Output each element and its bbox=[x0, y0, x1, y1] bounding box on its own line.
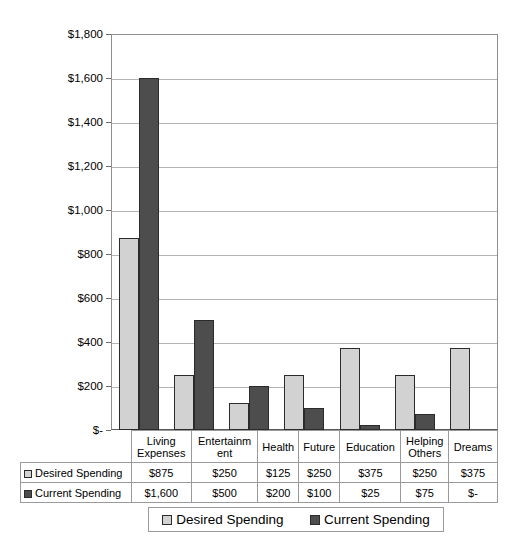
y-axis-tick-label: $200 bbox=[37, 380, 103, 392]
category-header-cell: Health bbox=[258, 431, 299, 463]
y-axis-tick-label: $1,800 bbox=[37, 28, 103, 40]
bar bbox=[229, 403, 249, 431]
bar bbox=[415, 414, 435, 431]
bar bbox=[304, 408, 324, 430]
table-row: Desired Spending$875$250$125$250$375$250… bbox=[21, 463, 498, 483]
legend-entry: Desired Spending bbox=[162, 512, 283, 527]
bar bbox=[119, 238, 139, 431]
data-cell: $100 bbox=[299, 483, 340, 503]
data-cell: $25 bbox=[340, 483, 401, 503]
category-header-cell: LivingExpenses bbox=[131, 431, 191, 463]
data-cell: $250 bbox=[191, 463, 257, 483]
bar bbox=[139, 78, 159, 430]
data-cell: $125 bbox=[258, 463, 299, 483]
y-axis-tick-label: $1,000 bbox=[37, 204, 103, 216]
category-header-cell: Dreams bbox=[449, 431, 498, 463]
category-header-cell: Education bbox=[340, 431, 401, 463]
data-cell: $200 bbox=[258, 483, 299, 503]
data-cell: $500 bbox=[191, 483, 257, 503]
bar bbox=[340, 348, 360, 431]
y-axis-tick-label: $1,400 bbox=[37, 116, 103, 128]
table-corner-cell bbox=[21, 431, 132, 463]
bar-group bbox=[277, 34, 332, 430]
bar bbox=[194, 320, 214, 430]
table-row: LivingExpensesEntertainmentHealthFutureE… bbox=[21, 431, 498, 463]
bar-chart: $1,800$1,600$1,400$1,200$1,000$800$600$4… bbox=[0, 0, 524, 556]
bar bbox=[284, 375, 304, 430]
bar-group bbox=[387, 34, 442, 430]
category-header-cell: Entertainment bbox=[191, 431, 257, 463]
y-axis-tick-label: $800 bbox=[37, 248, 103, 260]
legend-swatch-icon bbox=[162, 515, 172, 525]
legend-label: Current Spending bbox=[324, 512, 430, 527]
data-cell: $- bbox=[449, 483, 498, 503]
bar bbox=[249, 386, 269, 430]
data-table: LivingExpensesEntertainmentHealthFutureE… bbox=[20, 430, 498, 503]
legend-label: Desired Spending bbox=[176, 512, 283, 527]
legend-swatch-icon bbox=[310, 515, 320, 525]
bar bbox=[174, 375, 194, 430]
y-axis-tick-label: $400 bbox=[37, 336, 103, 348]
table-row: Current Spending$1,600$500$200$100$25$75… bbox=[21, 483, 498, 503]
data-cell: $875 bbox=[131, 463, 191, 483]
bar-group bbox=[166, 34, 221, 430]
chart-legend: Desired SpendingCurrent Spending bbox=[148, 507, 444, 532]
series-name-label: Current Spending bbox=[35, 487, 121, 499]
bar-group bbox=[222, 34, 277, 430]
category-header-cell: Future bbox=[299, 431, 340, 463]
bar-group bbox=[332, 34, 387, 430]
y-axis-tick-label: $1,200 bbox=[37, 160, 103, 172]
data-cell: $375 bbox=[340, 463, 401, 483]
legend-swatch-icon bbox=[24, 490, 32, 498]
data-cell: $250 bbox=[299, 463, 340, 483]
bar-group bbox=[111, 34, 166, 430]
series-name-label: Desired Spending bbox=[35, 467, 122, 479]
data-cell: $250 bbox=[401, 463, 449, 483]
bar-group bbox=[443, 34, 498, 430]
bar bbox=[450, 348, 470, 431]
legend-swatch-icon bbox=[24, 470, 32, 478]
bars-layer bbox=[111, 34, 498, 430]
legend-entry: Current Spending bbox=[310, 512, 430, 527]
bar bbox=[395, 375, 415, 430]
category-header-cell: HelpingOthers bbox=[401, 431, 449, 463]
y-axis-tick-label: $600 bbox=[37, 292, 103, 304]
y-axis-tick-label: $1,600 bbox=[37, 72, 103, 84]
data-cell: $375 bbox=[449, 463, 498, 483]
series-row-header: Desired Spending bbox=[21, 463, 132, 483]
data-cell: $1,600 bbox=[131, 483, 191, 503]
series-row-header: Current Spending bbox=[21, 483, 132, 503]
data-cell: $75 bbox=[401, 483, 449, 503]
